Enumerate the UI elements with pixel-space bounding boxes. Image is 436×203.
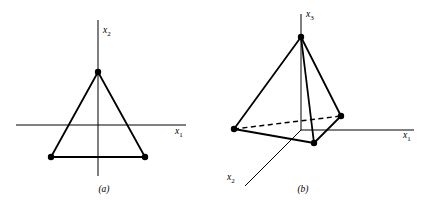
tetrahedron-hidden-edge-left-right bbox=[234, 116, 341, 129]
vertex-bottom-right bbox=[142, 154, 148, 160]
x2-axis-label: x2 bbox=[102, 25, 111, 38]
vertex-apex bbox=[95, 69, 101, 75]
vertex-front bbox=[311, 140, 317, 146]
panel-b-simplex-3d: x3 x1 x2 (b) bbox=[218, 0, 436, 203]
x2-axis-label-subscript: 2 bbox=[107, 30, 111, 38]
x1-axis-label: x1 bbox=[402, 130, 411, 143]
figure-root: x2 x1 (a) bbox=[0, 0, 436, 203]
triangle-edge-apex-bottomleft bbox=[51, 72, 98, 157]
x3-axis-label-subscript: 3 bbox=[310, 14, 314, 22]
tetrahedron-edge-apex-left bbox=[234, 37, 301, 129]
tetrahedron-edge-left-front bbox=[234, 129, 314, 143]
x1-axis-label: x1 bbox=[174, 126, 183, 139]
x1-axis-label-subscript: 1 bbox=[179, 131, 183, 139]
tetrahedron-edge-apex-front bbox=[301, 37, 314, 143]
x2-axis-label-subscript: 2 bbox=[231, 177, 235, 185]
triangle-edge-apex-bottomright bbox=[98, 72, 145, 157]
vertex-apex bbox=[298, 34, 304, 40]
x1-axis-label-subscript: 1 bbox=[407, 135, 411, 143]
panel-a-simplex-2d: x2 x1 (a) bbox=[0, 0, 218, 203]
vertex-left bbox=[231, 126, 237, 132]
vertex-bottom-left bbox=[48, 154, 54, 160]
vertex-right bbox=[338, 113, 344, 119]
x2-axis-label: x2 bbox=[226, 172, 235, 185]
x3-axis-label: x3 bbox=[305, 9, 314, 22]
tetrahedron-edge-apex-right bbox=[301, 37, 341, 116]
panel-a-caption: (a) bbox=[98, 184, 109, 195]
panel-b-caption: (b) bbox=[297, 184, 308, 195]
